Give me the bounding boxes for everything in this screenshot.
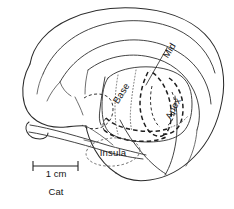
frontal-pole-outline [23,64,86,127]
dorsal-sulci-group [37,21,215,130]
cruciate-sulcus [37,74,43,94]
label-base: Base [110,81,131,106]
suprasylvian-sulcus-outer [60,40,211,104]
mid-field-group [140,71,171,136]
scale-bar-label: 1 cm [33,169,79,179]
anterior-field-group [82,94,113,129]
mid-field-inner-line [151,86,161,127]
label-mid: Mid [160,40,178,59]
anterior-field-boundary [82,94,113,129]
cerebrum-outline [30,8,224,181]
sylvian-region-group [99,77,197,175]
suprasylvian-sulcus-inner [88,55,199,130]
cat-brain-figure: Base Mid Apex Insula 1 cm Cat [0,0,234,209]
ansate-sulcus [47,82,60,101]
lateral-sulcus-branch [75,97,83,115]
coronal-sulcus [60,82,71,96]
marginal-sulcus [43,21,215,74]
mid-field-lateral-edge [150,71,171,136]
species-label: Cat [33,187,79,197]
presylvian-sulcus [85,70,88,94]
label-insula: Insula [100,147,127,158]
label-apex: Apex [163,96,183,121]
posterior-suprasylvian-branch [186,130,197,166]
base-field-boundary [130,70,136,131]
